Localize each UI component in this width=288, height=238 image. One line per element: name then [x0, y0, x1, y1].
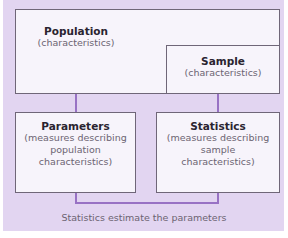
diagram-caption: Statistics estimate the parameters — [0, 212, 288, 223]
bracket-bottom — [75, 202, 219, 204]
connector-sample-statistics — [217, 93, 219, 113]
parameters-desc-2: population — [16, 144, 135, 156]
sample-title: Sample — [167, 55, 279, 67]
parameters-desc-3: characteristics) — [16, 156, 135, 168]
statistics-desc-3: characteristics) — [157, 156, 279, 168]
statistics-box: Statistics (measures describing sample c… — [156, 112, 280, 193]
statistics-desc-2: sample — [157, 144, 279, 156]
population-subtitle: (characteristics) — [16, 37, 136, 49]
parameters-title: Parameters — [16, 120, 135, 132]
parameters-desc-1: (measures describing — [16, 132, 135, 144]
connector-population-parameters — [75, 93, 77, 113]
sample-box: Sample (characteristics) — [166, 45, 280, 94]
statistics-desc-1: (measures describing — [157, 132, 279, 144]
statistics-title: Statistics — [157, 120, 279, 132]
parameters-box: Parameters (measures describing populati… — [15, 112, 136, 193]
population-title: Population — [16, 25, 136, 37]
sample-subtitle: (characteristics) — [167, 67, 279, 79]
